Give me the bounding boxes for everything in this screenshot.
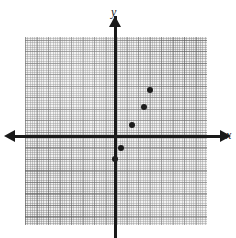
y-axis-line bbox=[114, 16, 117, 238]
data-point bbox=[112, 156, 118, 162]
y-axis-label: y bbox=[111, 6, 116, 18]
x-axis-left-arrow-icon bbox=[4, 130, 15, 142]
data-point bbox=[129, 122, 135, 128]
x-axis-label: x bbox=[226, 129, 231, 141]
coordinate-plane-figure: y x bbox=[0, 0, 236, 238]
data-point bbox=[118, 145, 124, 151]
data-point bbox=[141, 104, 147, 110]
data-point bbox=[147, 87, 153, 93]
x-axis-line bbox=[12, 135, 224, 138]
